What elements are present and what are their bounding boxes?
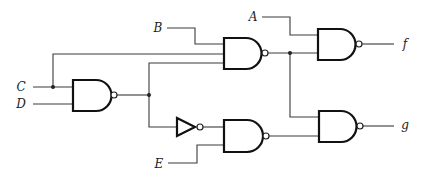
inversion-bubble	[263, 133, 269, 139]
output-label-f: f	[402, 37, 410, 51]
input-label-a: A	[248, 10, 258, 24]
inversion-bubble	[356, 41, 362, 47]
wire-g1-to-inverter	[149, 95, 177, 127]
input-label-d: D	[15, 97, 26, 111]
nand-gate-icon	[73, 80, 112, 111]
nand-gate-icon	[318, 29, 356, 60]
nand-gate-g5	[319, 111, 363, 142]
wire-a-to-g3	[262, 17, 318, 35]
inversion-bubble	[262, 50, 268, 56]
output-label-g: g	[401, 118, 409, 132]
inversion-bubble	[197, 124, 203, 130]
nand-gate-g4	[224, 120, 269, 152]
logic-circuit-diagram: A B C D E f g	[0, 0, 429, 178]
inversion-bubble	[111, 92, 117, 98]
nand-gate-icon	[224, 38, 262, 69]
input-label-b: B	[153, 21, 163, 35]
junction-dot-g1	[147, 93, 151, 97]
junction-dot-g2	[288, 51, 292, 55]
wire-b-to-g2	[167, 28, 224, 44]
wire-g1-to-g2	[149, 63, 224, 95]
nand-gate-g3	[318, 29, 362, 60]
not-gate-inverter	[177, 118, 203, 136]
nand-gate-icon	[224, 120, 263, 152]
nand-gate-g1	[73, 80, 117, 111]
input-label-c: C	[16, 80, 25, 94]
wire-g2-to-g5	[290, 53, 319, 117]
nand-gate-g2	[224, 38, 268, 69]
wire-e-to-g4	[168, 145, 224, 163]
nand-gate-icon	[319, 111, 357, 142]
inverter-triangle-icon	[177, 118, 195, 136]
circuit-svg: A B C D E f g	[0, 0, 429, 178]
inversion-bubble	[357, 123, 363, 129]
input-label-e: E	[154, 157, 164, 171]
junction-dot-c	[51, 85, 55, 89]
